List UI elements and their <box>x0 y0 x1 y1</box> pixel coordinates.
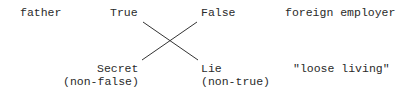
line-true-to-lie <box>143 22 198 60</box>
cross-lines <box>0 0 411 92</box>
line-false-to-secret <box>142 22 197 60</box>
